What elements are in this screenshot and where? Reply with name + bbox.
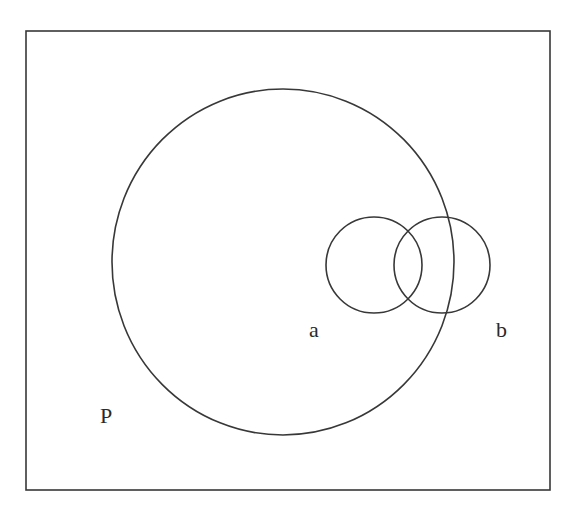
venn-diagram: P a b: [0, 0, 573, 516]
set-b-circle: [394, 217, 490, 313]
set-a-large-circle: [112, 89, 454, 435]
set-a-label: a: [309, 317, 319, 342]
universe-label-p: P: [100, 403, 112, 428]
set-b-label: b: [496, 317, 507, 342]
